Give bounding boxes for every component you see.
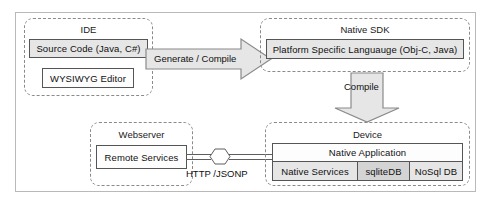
- box-nosql-db[interactable]: NoSql DB: [409, 161, 463, 181]
- connector-hexagon-icon: [209, 148, 231, 166]
- group-ide-title: IDE: [25, 24, 152, 35]
- diagram-canvas: IDE Source Code (Java, C#) WYSIWYG Edito…: [0, 0, 489, 206]
- box-native-services[interactable]: Native Services: [272, 161, 358, 181]
- box-remote-services[interactable]: Remote Services: [96, 145, 187, 169]
- connector-line-left-lower: [186, 159, 211, 160]
- box-source-code[interactable]: Source Code (Java, C#): [29, 39, 148, 58]
- generate-compile-arrow-label: Generate / Compile: [154, 53, 236, 64]
- compile-arrow-label: Compile: [344, 81, 379, 92]
- group-native-sdk-title: Native SDK: [261, 24, 469, 35]
- connector-line-left-upper: [186, 154, 211, 155]
- box-wysiwyg-editor[interactable]: WYSIWYG Editor: [42, 68, 134, 88]
- compile-arrow: [333, 72, 401, 124]
- connector-label: HTTP /JSONP: [186, 168, 248, 179]
- box-platform-specific-language[interactable]: Platform Specific Languauge (Obj-C, Java…: [266, 39, 464, 59]
- group-webserver-title: Webserver: [91, 129, 192, 140]
- group-device-title: Device: [266, 129, 469, 140]
- box-native-application[interactable]: Native Application: [272, 143, 463, 162]
- box-sqlitedb[interactable]: sqliteDB: [357, 161, 410, 181]
